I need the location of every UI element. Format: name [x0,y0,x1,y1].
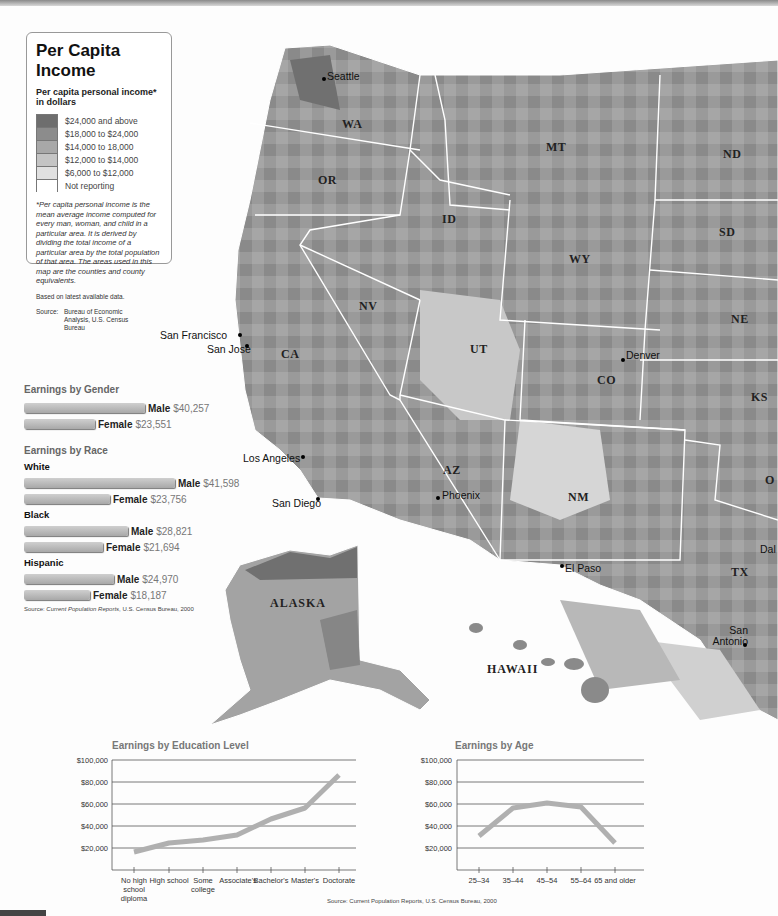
state-label-nm: NM [568,490,589,505]
bar-label: Male$40,257 [148,403,209,414]
bar [24,574,114,584]
city-dot [301,455,305,459]
state-label-mt: MT [546,140,566,155]
bar-label: Male$24,970 [117,574,178,585]
swatch [36,153,58,166]
legend-source: Source: Bureau of Economic Analysis, U.S… [36,308,162,332]
y-tick: $80,000 [60,778,108,787]
city-dallas: Dal [760,543,776,555]
state-label-co: CO [597,373,616,388]
race-group-label: White [24,461,254,472]
bar-label: Female$18,187 [93,590,167,601]
bar-row: Male$41,598 [24,475,254,491]
city-dot [316,497,320,501]
source-value: Bureau of Economic Analysis, U.S. Census… [64,308,144,332]
legend-class: Not reporting [36,179,162,192]
x-tick: 65 and older [593,876,637,885]
state-label-sd: SD [719,225,735,240]
y-tick: $40,000 [404,822,452,831]
bar [24,526,128,536]
gender-title: Earnings by Gender [24,384,254,395]
state-label-id: ID [442,212,456,227]
income-legend: Per Capita Income Per capita personal in… [26,32,172,264]
legend-class-label: Not reporting [65,181,114,191]
city-dot [743,643,747,647]
swatch [36,140,58,153]
city-denver: Denver [626,349,660,361]
city-dot [436,496,440,500]
state-label-ca: CA [281,347,299,362]
legend-class-label: $6,000 to $12,000 [65,168,134,178]
city-dot [621,358,625,362]
city-phoenix: Phoenix [442,489,480,501]
bar-label: Female$21,694 [106,542,180,553]
bar-row: Female$23,756 [24,491,254,507]
y-tick: $20,000 [60,844,108,853]
state-label-hawaii: HAWAII [487,662,538,677]
race-group-label: Hispanic [24,557,254,568]
swatch [36,179,58,192]
swatch [36,166,58,179]
legend-based-on: Based on latest available data. [36,293,162,301]
y-tick: $80,000 [404,778,452,787]
legend-class: $14,000 to 18,000 [36,140,162,153]
state-label-wa: WA [342,117,362,132]
bar-label: Female$23,551 [98,419,172,430]
race-group-label: Black [24,509,254,520]
legend-class-label: $24,000 and above [65,116,138,126]
race-source: Source: Current Population Reports, U.S.… [24,606,254,612]
city-dot [322,77,326,81]
legend-subtitle: Per capita personal income* in dollars [36,87,162,107]
bar-label: Male$41,598 [178,478,239,489]
bar [24,542,103,552]
bar-row: Male$28,821 [24,523,254,539]
legend-class: $12,000 to $14,000 [36,153,162,166]
y-tick: $100,000 [404,756,452,765]
y-tick: $60,000 [404,800,452,809]
y-tick: $100,000 [60,756,108,765]
legend-class: $6,000 to $12,000 [36,166,162,179]
legend-class-label: $18,000 to $24,000 [65,129,138,139]
corner-tab [0,910,46,916]
charts-source: Source: Current Population Reports, U.S.… [327,898,497,904]
bar [24,403,145,413]
city-san-diego: San Diego [272,497,321,509]
state-label-or: OR [318,173,337,188]
city-san-francisco: San Francisco [160,329,227,341]
x-tick: Doctorate [317,876,361,885]
legend-class: $24,000 and above [36,114,162,127]
state-label-ok: O [765,473,775,488]
state-label-nv: NV [359,299,377,314]
source-key: Source: [36,308,64,332]
city-seattle: Seattle [327,70,360,82]
bar-row: Female$21,694 [24,539,254,555]
state-label-wy: WY [569,252,591,267]
y-tick: $60,000 [60,800,108,809]
city-dot [560,564,564,568]
city-el-paso: El Paso [565,562,601,574]
bar-row: Male$24,970 [24,571,254,587]
race-title: Earnings by Race [24,445,254,456]
y-tick: $40,000 [60,822,108,831]
swatch [36,114,58,127]
age-chart: Earnings by Age $100,000 $80,000 $60,000… [390,735,690,895]
state-label-ne: NE [731,312,749,327]
bar-row: Female$23,551 [24,416,254,432]
bar-label: Male$28,821 [131,526,192,537]
bar [24,590,90,600]
bar-label: Female$23,756 [113,494,187,505]
city-san-antonio: San Antonio [708,625,748,647]
earnings-bars: Earnings by Gender Male$40,257 Female$23… [24,384,254,612]
legend-class-label: $12,000 to $14,000 [65,155,138,165]
legend-footnote: *Per capita personal income is the mean … [36,200,162,286]
state-label-az: AZ [443,463,461,478]
education-chart: Earnings by Education Level $100,000 $80… [60,735,380,905]
y-tick: $20,000 [404,844,452,853]
state-label-ut: UT [470,342,488,357]
state-label-alaska: ALASKA [270,596,326,611]
legend-class: $18,000 to $24,000 [36,127,162,140]
state-label-tx: TX [731,565,749,580]
swatch [36,127,58,140]
city-dot [238,333,242,337]
legend-class-label: $14,000 to 18,000 [65,142,134,152]
